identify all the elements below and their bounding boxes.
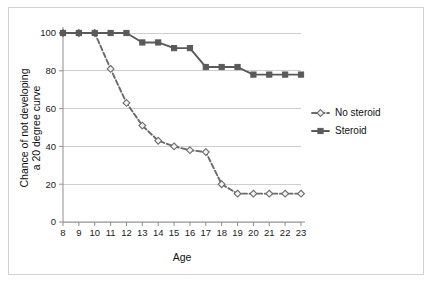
legend-steroid-marker-0 bbox=[318, 128, 323, 133]
chart-legend: No steroidSteroid bbox=[312, 107, 381, 136]
series-steroid-marker-0 bbox=[60, 30, 65, 35]
x-tick-label-11: 11 bbox=[106, 227, 116, 238]
x-tick-label-13: 13 bbox=[137, 227, 148, 238]
series-no-steroid-marker-7 bbox=[171, 143, 178, 150]
y-tick-label-0: 0 bbox=[51, 216, 56, 227]
x-tick-label-8: 8 bbox=[60, 227, 65, 238]
x-tick-label-19: 19 bbox=[232, 227, 243, 238]
series-no-steroid bbox=[60, 30, 305, 197]
x-tick-label-16: 16 bbox=[185, 227, 196, 238]
x-tick-label-14: 14 bbox=[153, 227, 164, 238]
y-axis-title-line1: Chance of not developing bbox=[18, 68, 30, 187]
series-steroid bbox=[60, 30, 303, 77]
legend-item-steroid[interactable]: Steroid bbox=[312, 125, 367, 136]
series-no-steroid-marker-15 bbox=[298, 190, 305, 197]
x-tick-label-18: 18 bbox=[216, 227, 227, 238]
y-tick-label-60: 60 bbox=[45, 103, 56, 114]
legend-label-steroid: Steroid bbox=[335, 125, 367, 136]
series-steroid-marker-3 bbox=[108, 30, 113, 35]
x-tick-label-12: 12 bbox=[121, 227, 132, 238]
x-tick-label-22: 22 bbox=[280, 227, 291, 238]
series-steroid-marker-10 bbox=[219, 64, 224, 69]
series-no-steroid-marker-9 bbox=[202, 149, 209, 156]
series-no-steroid-marker-13 bbox=[266, 190, 273, 197]
series-steroid-marker-7 bbox=[171, 46, 176, 51]
legend-label-no-steroid: No steroid bbox=[335, 107, 381, 118]
legend-no-steroid-marker-0 bbox=[317, 110, 324, 117]
x-axis-ticks: 891011121314151617181920212223 bbox=[60, 222, 306, 238]
series-line-steroid bbox=[63, 33, 301, 75]
series-steroid-marker-5 bbox=[140, 40, 145, 45]
series-line-no-steroid bbox=[63, 33, 301, 194]
line-chart: 020406080100 891011121314151617181920212… bbox=[0, 0, 433, 284]
y-axis-ticks: 020406080100 bbox=[40, 27, 63, 227]
chart-figure: 020406080100 891011121314151617181920212… bbox=[0, 0, 433, 284]
y-tick-label-100: 100 bbox=[40, 27, 56, 38]
series-steroid-marker-8 bbox=[187, 46, 192, 51]
y-tick-label-40: 40 bbox=[45, 141, 56, 152]
series-no-steroid-marker-8 bbox=[187, 147, 194, 154]
series-no-steroid-marker-3 bbox=[107, 66, 114, 73]
series-steroid-marker-11 bbox=[235, 64, 240, 69]
x-tick-label-15: 15 bbox=[169, 227, 180, 238]
series-steroid-marker-6 bbox=[156, 40, 161, 45]
data-series bbox=[60, 30, 305, 197]
series-steroid-marker-14 bbox=[283, 72, 288, 77]
x-tick-label-23: 23 bbox=[296, 227, 307, 238]
x-tick-label-20: 20 bbox=[248, 227, 259, 238]
x-tick-label-10: 10 bbox=[89, 227, 100, 238]
series-steroid-marker-13 bbox=[267, 72, 272, 77]
series-steroid-marker-9 bbox=[203, 64, 208, 69]
x-tick-label-17: 17 bbox=[201, 227, 212, 238]
series-no-steroid-marker-12 bbox=[250, 190, 257, 197]
series-steroid-marker-12 bbox=[251, 72, 256, 77]
series-steroid-marker-4 bbox=[124, 30, 129, 35]
series-no-steroid-marker-14 bbox=[282, 190, 289, 197]
series-steroid-marker-1 bbox=[76, 30, 81, 35]
x-tick-label-9: 9 bbox=[76, 227, 81, 238]
y-tick-label-20: 20 bbox=[45, 179, 56, 190]
legend-item-no-steroid[interactable]: No steroid bbox=[312, 107, 381, 118]
y-axis-title-line2: a 20 degree curve bbox=[30, 86, 42, 171]
series-steroid-marker-15 bbox=[298, 72, 303, 77]
y-tick-label-80: 80 bbox=[45, 65, 56, 76]
x-tick-label-21: 21 bbox=[264, 227, 275, 238]
series-steroid-marker-2 bbox=[92, 30, 97, 35]
x-axis-title: Age bbox=[173, 251, 192, 263]
